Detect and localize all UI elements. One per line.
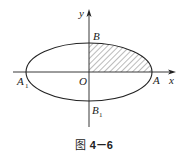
vertex-a1-label: A: [16, 75, 24, 87]
vertex-b-label: B: [93, 30, 100, 42]
vertex-b1-label: B: [92, 104, 99, 116]
ellipse-diagram: y x O B A A 1 B 1: [0, 0, 188, 157]
vertex-a-label: A: [152, 74, 160, 86]
caption-number: 4－6: [90, 139, 113, 151]
vertex-a1-subscript: 1: [25, 82, 29, 90]
figure-caption: 图 4－6: [0, 136, 188, 152]
y-axis-label: y: [78, 7, 84, 19]
vertex-b1-subscript: 1: [99, 111, 103, 119]
origin-label: O: [79, 75, 87, 87]
x-axis-label: x: [168, 74, 174, 86]
caption-prefix: 图: [75, 139, 86, 152]
